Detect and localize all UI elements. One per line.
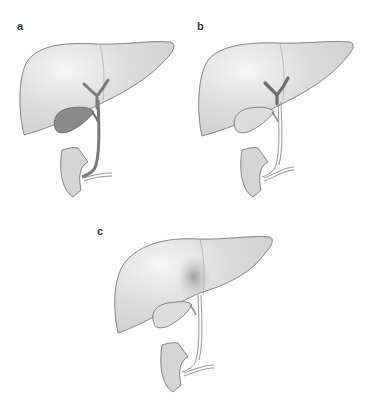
panel-a: a [0,0,190,205]
duodenum-icon [241,148,268,197]
panel-c: c [90,205,290,403]
liver-diagram-c [90,205,290,403]
liver-diagram-a [0,0,190,205]
liver-diagram-b [190,0,373,205]
duodenum-icon [61,148,88,197]
panel-b: b [190,0,373,205]
lesion-spot [177,255,211,299]
liver-icon [199,41,354,136]
duodenum-icon [161,343,188,392]
